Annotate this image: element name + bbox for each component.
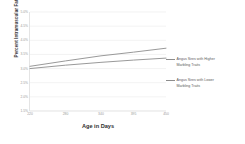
legend-label-higher: Angus Sires with HigherMarbling Traits [177,57,239,68]
legend-item-lower-marbling[interactable]: Angus Sires with LowerMarbling Traits [166,78,239,89]
legend-label-lower: Angus Sires with LowerMarbling Traits [177,78,239,89]
y-tick-label: 2.5% [14,81,28,85]
x-tick-label: 395 [122,112,144,116]
data-series-group [30,48,166,68]
y-tick-label: 4.0% [14,38,28,42]
data-line-series-1 [30,48,166,66]
y-tick-label: 5.0% [14,10,28,14]
legend-label-lower-line1: Angus Sires with Lower [177,78,215,82]
chart-container: Percent Intramuscular Fat Age in Days 5.… [0,0,245,144]
y-tick-label: 3.0% [14,67,28,71]
legend-label-higher-line1: Angus Sires with Higher [177,57,215,61]
legend-line-marker-higher [166,59,175,60]
y-tick-label: 4.5% [14,24,28,28]
y-tick-label: 3.5% [14,52,28,56]
legend-label-lower-line2: Marbling Traits [177,84,201,88]
x-tick-label: 280 [54,112,76,116]
x-tick-label: 450 [155,112,177,116]
gridlines-group [30,12,166,111]
legend-item-higher-marbling[interactable]: Angus Sires with HigherMarbling Traits [166,57,239,68]
y-tick-label: 2.0% [14,95,28,99]
x-axis-title: Age in Days [28,123,168,129]
x-tick-label: 340 [90,112,112,116]
x-tick-label: 220 [19,112,41,116]
legend-line-marker-lower [166,80,175,81]
legend-label-higher-line2: Marbling Traits [177,63,201,67]
